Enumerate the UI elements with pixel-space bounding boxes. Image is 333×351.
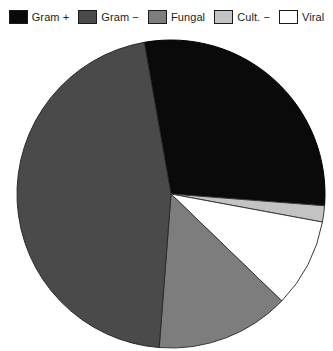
legend-swatch-cult-minus — [214, 10, 233, 24]
legend-label-viral: Viral — [302, 12, 324, 23]
legend-label-gram-plus: Gram + — [32, 12, 70, 23]
pie-chart-figure: Gram + Gram − Fungal Cult. − Viral — [0, 0, 333, 351]
legend-label-gram-minus: Gram − — [101, 12, 139, 23]
legend-item-cult-minus[interactable]: Cult. − — [214, 10, 270, 24]
legend-label-fungal: Fungal — [171, 12, 205, 23]
legend-swatch-gram-plus — [9, 10, 28, 24]
legend-item-viral[interactable]: Viral — [279, 10, 324, 24]
legend-swatch-viral — [279, 10, 298, 24]
legend-item-gram-plus[interactable]: Gram + — [9, 10, 70, 24]
legend-label-cult-minus: Cult. − — [237, 12, 270, 23]
legend-item-gram-minus[interactable]: Gram − — [78, 10, 139, 24]
legend-swatch-fungal — [148, 10, 167, 24]
legend-swatch-gram-minus — [78, 10, 97, 24]
pie-plot-area — [0, 34, 333, 351]
pie-svg — [0, 34, 333, 351]
pie-slice[interactable] — [17, 42, 171, 347]
pie-slice-group — [17, 40, 325, 348]
pie-slice[interactable] — [144, 40, 325, 206]
chart-legend: Gram + Gram − Fungal Cult. − Viral — [0, 0, 333, 34]
legend-item-fungal[interactable]: Fungal — [148, 10, 205, 24]
